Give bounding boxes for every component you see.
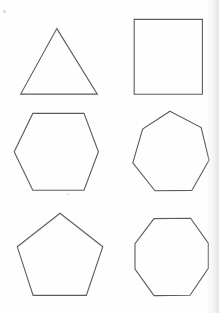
octagon-shape [135,218,208,295]
hexagon-shape [14,113,98,190]
pentagon-shape [17,213,103,295]
polygon-sheet [0,0,219,313]
figure-canvas [0,0,219,313]
triangle-shape [21,29,98,95]
scan-speck-top-left-icon [3,10,6,13]
scan-speck-mid-icon [66,193,69,195]
heptagon-shape [133,111,209,191]
square-shape [134,19,202,94]
